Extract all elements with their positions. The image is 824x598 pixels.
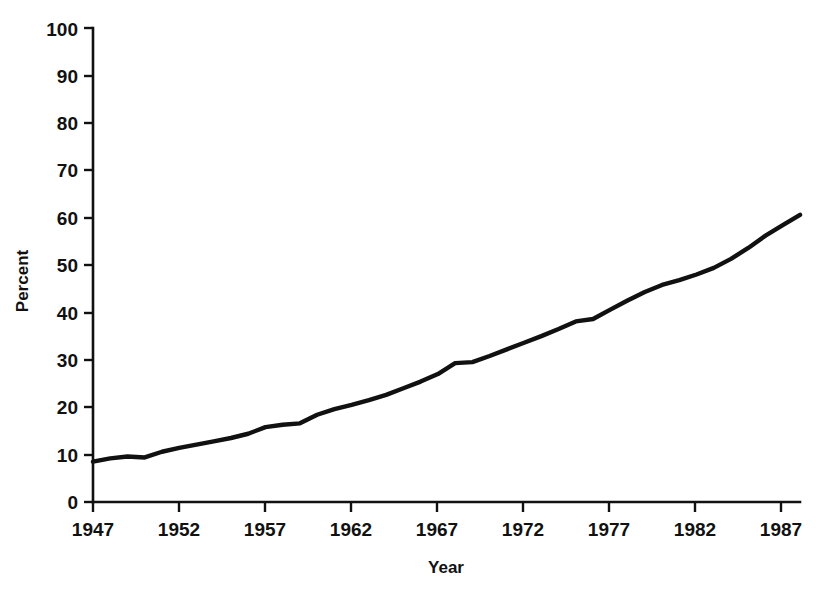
line-chart: 0 10 20 30 40 50 60 70 80 90 100 1947 <box>0 0 824 598</box>
chart-figure: 0 10 20 30 40 50 60 70 80 90 100 1947 <box>0 0 824 598</box>
y-tick-label: 90 <box>57 66 78 87</box>
y-tick-label: 40 <box>57 303 78 324</box>
y-tick-label: 30 <box>57 350 78 371</box>
y-tick-label: 50 <box>57 255 78 276</box>
x-tick-label: 1947 <box>72 519 114 540</box>
x-tick-label: 1962 <box>330 519 372 540</box>
y-tick-label: 80 <box>57 113 78 134</box>
y-tick-label: 60 <box>57 208 78 229</box>
x-tick-label: 1977 <box>588 519 630 540</box>
y-tick-label: 100 <box>46 19 78 40</box>
x-axis-ticks <box>93 502 781 512</box>
x-axis-tick-labels: 1947 1952 1957 1962 1967 1972 1977 1982 … <box>72 519 802 540</box>
y-tick-label: 10 <box>57 445 78 466</box>
y-axis-ticks <box>84 28 93 502</box>
y-tick-label: 0 <box>67 492 78 513</box>
x-tick-label: 1967 <box>416 519 458 540</box>
x-tick-label: 1952 <box>158 519 200 540</box>
x-tick-label: 1987 <box>760 519 802 540</box>
x-axis-title: Year <box>428 558 464 577</box>
y-tick-label: 70 <box>57 160 78 181</box>
y-tick-label: 20 <box>57 397 78 418</box>
y-axis-tick-labels: 0 10 20 30 40 50 60 70 80 90 100 <box>46 19 78 513</box>
x-tick-label: 1972 <box>502 519 544 540</box>
x-tick-label: 1957 <box>244 519 286 540</box>
x-tick-label: 1982 <box>674 519 716 540</box>
data-line-percent <box>93 215 800 462</box>
y-axis-title: Percent <box>13 249 32 312</box>
